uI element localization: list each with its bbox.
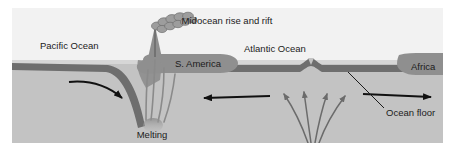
- cross-section-svg: Midocean rise and rift Pacific Ocean Atl…: [12, 8, 443, 143]
- label-ocean-floor: Ocean floor: [386, 107, 435, 118]
- label-atlantic-ocean: Atlantic Ocean: [244, 43, 306, 54]
- label-s-america: S. America: [175, 58, 222, 69]
- label-midocean-rise: Midocean rise and rift: [182, 15, 273, 26]
- mantle-region: [12, 60, 443, 143]
- label-melting: Melting: [137, 129, 168, 140]
- diagram-canvas: Midocean rise and rift Pacific Ocean Atl…: [0, 0, 456, 151]
- label-africa: Africa: [411, 61, 436, 72]
- label-pacific-ocean: Pacific Ocean: [40, 40, 99, 51]
- plate-tectonics-figure: Midocean rise and rift Pacific Ocean Atl…: [12, 8, 443, 143]
